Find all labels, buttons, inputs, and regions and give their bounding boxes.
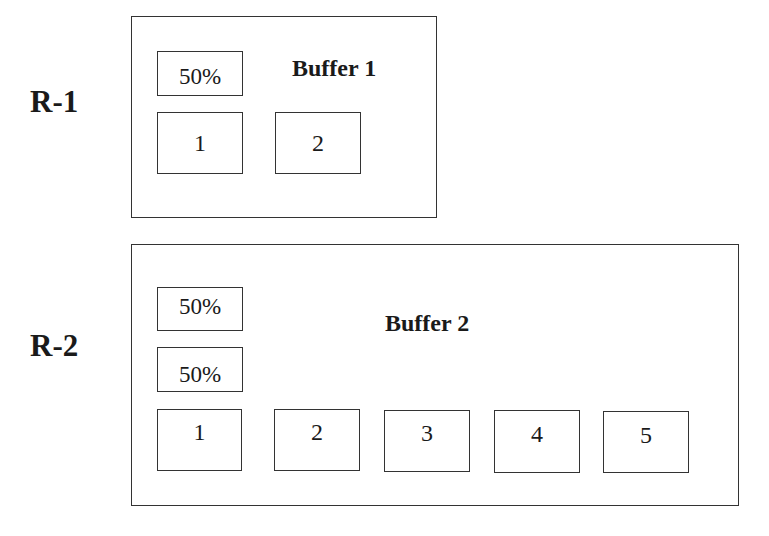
buffer-2-title: Buffer 2	[385, 311, 469, 335]
row-label-r2: R-2	[30, 330, 78, 361]
buffer-1-slot-2: 2	[275, 112, 361, 174]
buffer-1-percent-box: 50%	[157, 51, 243, 96]
buffer-1-title: Buffer 1	[292, 56, 376, 80]
buffer-2-slot-1: 1	[157, 409, 242, 471]
buffer-2-percent-box-1: 50%	[157, 287, 243, 331]
buffer-2-slot-5: 5	[603, 411, 689, 473]
buffer-2-percent-box-2: 50%	[157, 347, 243, 392]
buffer-2-slot-4: 4	[494, 410, 580, 473]
buffer-1-slot-1: 1	[157, 112, 243, 174]
buffer-2-slot-3: 3	[384, 410, 470, 472]
row-label-r1: R-1	[30, 86, 78, 117]
buffer-2-slot-2: 2	[274, 409, 360, 471]
